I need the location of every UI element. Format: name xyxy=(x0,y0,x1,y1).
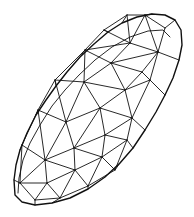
mesh-edge xyxy=(102,135,105,157)
mesh-boundary-edge xyxy=(127,140,133,148)
mesh-edge xyxy=(127,118,132,140)
mesh-edge xyxy=(158,28,165,52)
mesh-edge xyxy=(85,50,111,63)
mesh-edge xyxy=(38,110,66,122)
mesh-edge xyxy=(100,108,105,135)
mesh-edge xyxy=(75,170,88,186)
mesh-edge xyxy=(105,135,127,140)
mesh-edge xyxy=(47,183,60,198)
mesh-edge xyxy=(85,30,104,50)
mesh-boundary-edge xyxy=(150,80,165,95)
mesh-edge xyxy=(35,183,47,200)
mesh-edge xyxy=(20,160,45,183)
mesh-edge xyxy=(75,157,102,170)
mesh-edge xyxy=(47,170,75,183)
mesh-boundary-edge xyxy=(132,118,145,130)
mesh-edge xyxy=(45,160,47,183)
mesh-edge xyxy=(111,63,142,72)
mesh-edge xyxy=(84,63,111,82)
ellipsoid-mesh-diagram xyxy=(0,0,194,217)
mesh-edge xyxy=(100,90,125,108)
mesh-edge xyxy=(84,50,85,82)
mesh-edge xyxy=(145,15,158,52)
mesh-edge xyxy=(125,72,142,90)
mesh-edge xyxy=(74,148,102,157)
mesh-edge xyxy=(111,63,125,90)
mesh-edge xyxy=(45,148,74,160)
mesh-boundary-edge xyxy=(165,20,175,28)
mesh-boundary-edge xyxy=(158,52,179,60)
mesh-edge xyxy=(84,82,100,108)
mesh-edge xyxy=(105,118,132,135)
mesh-edge xyxy=(20,183,35,200)
mesh-edge xyxy=(84,82,125,90)
mesh-outline xyxy=(14,14,182,205)
mesh-edge xyxy=(60,170,75,198)
mesh-edge xyxy=(38,110,45,160)
mesh-edge xyxy=(35,198,60,200)
mesh-edge xyxy=(145,15,165,28)
mesh-edge xyxy=(74,148,75,170)
mesh-edge xyxy=(45,160,75,170)
mesh-edge xyxy=(74,108,100,148)
mesh-edge xyxy=(150,52,158,80)
mesh-edge xyxy=(130,43,158,52)
mesh-edge xyxy=(125,90,132,118)
mesh-edge xyxy=(22,145,45,160)
mesh-edge xyxy=(66,122,74,148)
mesh-edge xyxy=(55,50,85,80)
mesh-edge xyxy=(45,122,66,160)
mesh-edge xyxy=(100,108,132,118)
mesh-edge xyxy=(142,72,150,80)
mesh-edge xyxy=(102,157,115,170)
